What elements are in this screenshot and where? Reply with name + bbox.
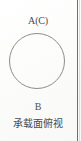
page-border-rule	[77, 0, 78, 141]
page-border-rule-secondary	[79, 0, 80, 141]
datum-label-a-c: A(C)	[0, 15, 76, 26]
datum-label-b: B	[0, 101, 76, 112]
bearing-surface-circle-outline	[9, 33, 65, 89]
bearing-surface-top-view-figure: A(C) B 承载面俯视	[0, 0, 81, 141]
figure-caption: 承载面俯视	[0, 117, 76, 130]
